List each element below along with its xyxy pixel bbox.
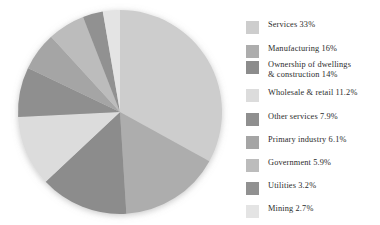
legend-color-swatch [246, 159, 259, 172]
legend-color-swatch [246, 21, 259, 34]
legend-color-swatch [246, 45, 259, 58]
legend-item[interactable]: Government 5.9% [246, 158, 331, 172]
legend-item-label: Utilities 3.2% [268, 181, 316, 191]
legend-item-label: Manufacturing 16% [268, 44, 337, 54]
legend-color-swatch [246, 205, 259, 218]
legend-item[interactable]: Primary industry 6.1% [246, 135, 347, 149]
legend-item-label: Other services 7.9% [268, 112, 338, 122]
legend-color-swatch [246, 89, 259, 102]
legend-item[interactable]: Utilities 3.2% [246, 181, 316, 195]
legend-item-label: Ownership of dwellings & construction 14… [268, 60, 351, 79]
legend-color-swatch [246, 182, 259, 195]
legend-item[interactable]: Ownership of dwellings & construction 14… [246, 60, 351, 79]
legend-color-swatch [246, 113, 259, 126]
chart-legend: Services 33%Manufacturing 16%Ownership o… [246, 12, 380, 217]
pie-slices-group [18, 10, 222, 214]
legend-color-swatch [246, 136, 259, 149]
pie-chart-svg [0, 0, 245, 225]
legend-item-label: Mining 2.7% [268, 204, 313, 214]
legend-item[interactable]: Wholesale & retail 11.2% [246, 88, 357, 102]
legend-item-label: Services 33% [268, 20, 315, 30]
legend-item-label: Primary industry 6.1% [268, 135, 347, 145]
legend-item-label: Government 5.9% [268, 158, 331, 168]
legend-item[interactable]: Other services 7.9% [246, 112, 338, 126]
pie-chart-plot-area [0, 0, 245, 225]
pie-chart-figure: Services 33%Manufacturing 16%Ownership o… [0, 0, 380, 225]
legend-item[interactable]: Manufacturing 16% [246, 44, 337, 58]
legend-color-swatch [246, 61, 259, 74]
legend-item[interactable]: Services 33% [246, 20, 315, 34]
legend-item-label: Wholesale & retail 11.2% [268, 88, 357, 98]
legend-item[interactable]: Mining 2.7% [246, 204, 313, 218]
